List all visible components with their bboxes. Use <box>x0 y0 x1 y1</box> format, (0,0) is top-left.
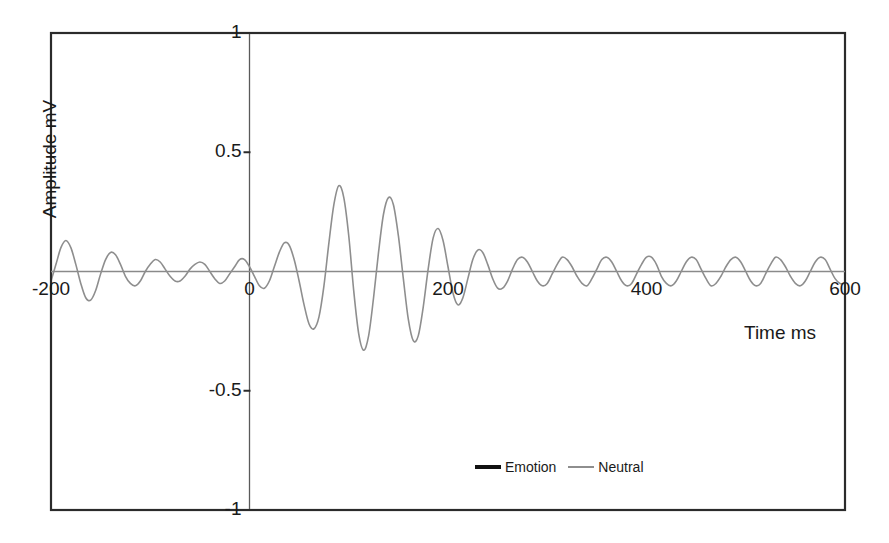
legend-swatch-emotion <box>475 465 501 469</box>
x-axis-label: Time ms <box>744 322 816 344</box>
y-tick-label: -0.5 <box>184 379 242 401</box>
erp-waveform-figure: Amplitude mV Time ms -1-0.50.51-20002004… <box>0 0 889 543</box>
legend-label-neutral: Neutral <box>598 459 643 475</box>
legend-item-neutral: Neutral <box>568 459 643 475</box>
x-tick-label: -200 <box>25 278 77 300</box>
x-tick-label: 600 <box>819 278 871 300</box>
x-tick-label: 0 <box>224 278 276 300</box>
y-tick-label: 1 <box>184 21 242 43</box>
y-axis-label: Amplitude mV <box>39 69 61 249</box>
chart-canvas <box>0 0 889 543</box>
chart-legend: Emotion Neutral <box>475 459 644 475</box>
x-tick-label: 400 <box>621 278 673 300</box>
series-line-neutral <box>51 185 845 350</box>
y-tick-label: 0.5 <box>184 140 242 162</box>
legend-item-emotion: Emotion <box>475 459 556 475</box>
legend-label-emotion: Emotion <box>505 459 556 475</box>
y-tick-label: -1 <box>184 498 242 520</box>
x-tick-label: 200 <box>422 278 474 300</box>
legend-swatch-neutral <box>568 466 594 468</box>
